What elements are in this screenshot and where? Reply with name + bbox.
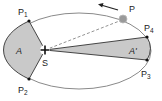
point-p3 bbox=[145, 58, 148, 61]
point-p1 bbox=[27, 19, 30, 22]
label-s: S bbox=[42, 58, 48, 68]
kepler-diagram: P1 P2 P3 P4 P S A A' bbox=[0, 0, 162, 101]
label-p4: P4 bbox=[144, 23, 154, 34]
label-p1: P1 bbox=[18, 7, 28, 18]
label-p2: P2 bbox=[18, 85, 28, 96]
point-p4 bbox=[145, 35, 148, 38]
label-p3: P3 bbox=[141, 69, 151, 80]
label-area-a-prime: A' bbox=[128, 46, 137, 56]
planet-icon bbox=[119, 15, 127, 23]
motion-arrow-icon bbox=[101, 5, 118, 10]
motion-arrowhead-icon bbox=[98, 3, 104, 8]
point-p2 bbox=[27, 77, 30, 80]
label-area-a: A bbox=[15, 46, 22, 56]
label-p: P bbox=[129, 4, 135, 14]
area-a-sector bbox=[4, 21, 45, 79]
